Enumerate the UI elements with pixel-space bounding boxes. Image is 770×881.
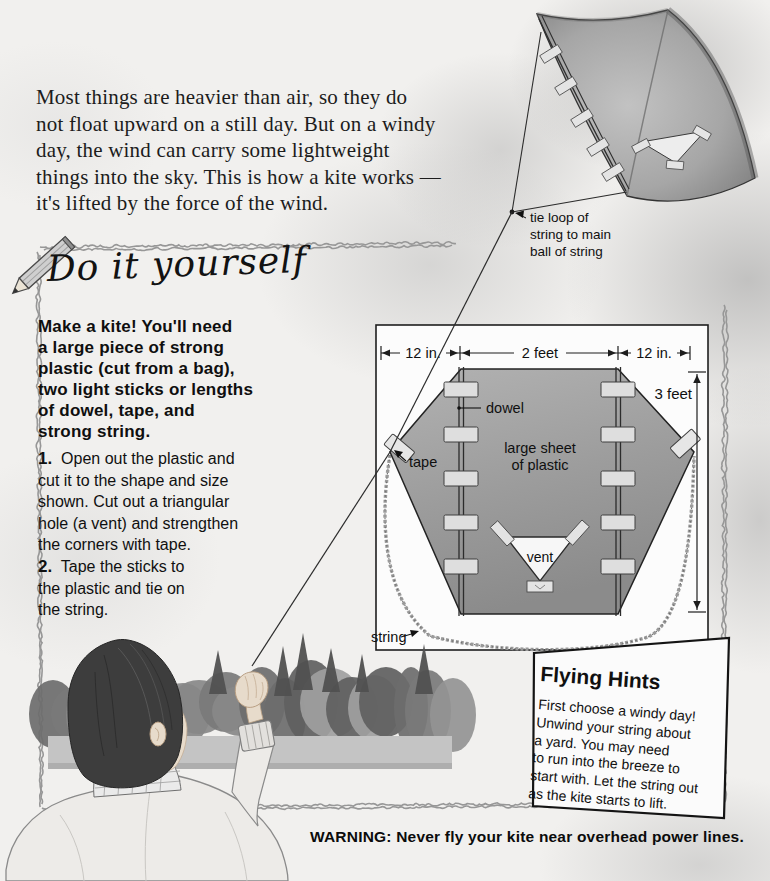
main-kite-string: [252, 212, 512, 666]
flying-hints-card: Flying Hints First choose a windy day! U…: [528, 638, 729, 818]
svg-text:string to main: string to main: [530, 227, 611, 242]
warning-text: WARNING: Never fly your kite near overhe…: [310, 828, 744, 846]
hair: [68, 639, 183, 787]
svg-text:ball of string: ball of string: [530, 244, 603, 259]
ear: [150, 722, 166, 746]
ribbed-cuff: [238, 720, 275, 751]
svg-text:tie loop of: tie loop of: [530, 210, 589, 225]
page: { "intro": { "lines": [ "Most things are…: [0, 0, 770, 881]
scene: tie loop of string to main ball of strin…: [0, 0, 770, 881]
tie-loop-label: tie loop of string to main ball of strin…: [515, 210, 611, 259]
flying-kite-illustration: [510, 10, 755, 214]
